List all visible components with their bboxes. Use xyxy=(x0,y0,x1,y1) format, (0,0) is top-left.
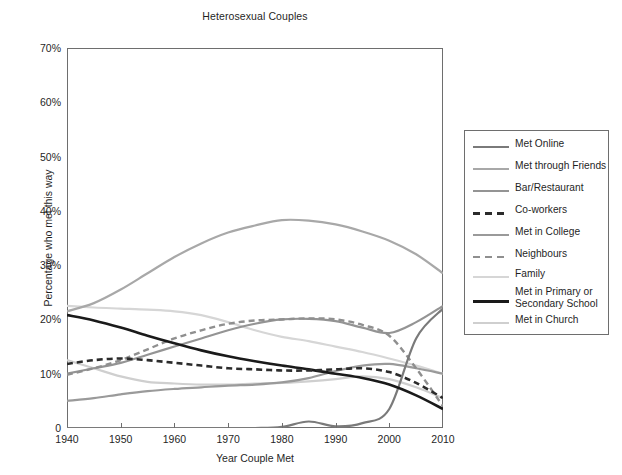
legend-label: Met in Primary or Secondary School xyxy=(515,286,598,309)
y-tick-label: 70% xyxy=(13,43,61,53)
legend-swatch-icon xyxy=(473,256,509,258)
legend-swatch-icon xyxy=(473,168,509,170)
x-tick-mark xyxy=(121,423,122,428)
series-line xyxy=(67,309,443,429)
legend-label: Met through Friends xyxy=(515,160,606,172)
y-tick-label: 0 xyxy=(13,423,61,433)
series-line xyxy=(67,360,443,398)
y-tick-label: 60% xyxy=(13,97,61,107)
chart-title: Heterosexual Couples xyxy=(67,10,443,22)
legend-swatch-icon xyxy=(473,234,509,236)
legend-item[interactable]: Bar/Restaurant xyxy=(465,185,610,205)
legend-label: Bar/Restaurant xyxy=(515,182,584,194)
legend-swatch-icon xyxy=(473,146,509,148)
x-tick-mark xyxy=(336,423,337,428)
x-tick-mark xyxy=(389,423,390,428)
x-tick-label: 1970 xyxy=(203,433,253,445)
x-tick-mark xyxy=(228,423,229,428)
x-tick-label: 1950 xyxy=(96,433,146,445)
y-tick-label: 30% xyxy=(13,260,61,270)
legend-label: Met in College xyxy=(515,226,580,238)
legend-item[interactable]: Co-workers xyxy=(465,207,610,227)
y-tick-label: 50% xyxy=(13,152,61,162)
x-tick-label: 1980 xyxy=(257,433,307,445)
legend-label: Met Online xyxy=(515,138,564,150)
legend-swatch-icon xyxy=(473,300,509,303)
x-tick-label: 2010 xyxy=(418,433,468,445)
x-tick-mark xyxy=(174,423,175,428)
x-tick-mark xyxy=(282,423,283,428)
legend-item[interactable]: Met through Friends xyxy=(465,163,610,183)
x-axis-label: Year Couple Met xyxy=(67,452,443,464)
legend-item[interactable]: Met Online xyxy=(465,141,610,161)
series-line xyxy=(67,220,443,312)
x-tick-label: 1940 xyxy=(42,433,92,445)
chart-legend: Met OnlineMet through FriendsBar/Restaur… xyxy=(464,130,609,335)
legend-label: Family xyxy=(515,268,545,280)
legend-label: Met in Church xyxy=(515,314,578,326)
x-tick-label: 1990 xyxy=(311,433,361,445)
chart-figure: Heterosexual Couples Percentage who met … xyxy=(0,0,622,475)
y-tick-label: 10% xyxy=(13,369,61,379)
legend-label: Co-workers xyxy=(515,204,567,216)
legend-item[interactable]: Met in College xyxy=(465,229,610,249)
legend-swatch-icon xyxy=(473,322,509,324)
x-tick-label: 2000 xyxy=(364,433,414,445)
legend-item[interactable]: Met in Church xyxy=(465,317,610,337)
chart-lines xyxy=(67,48,443,428)
x-tick-label: 1960 xyxy=(149,433,199,445)
legend-item[interactable]: Met in Primary or Secondary School xyxy=(465,291,610,311)
series-line xyxy=(67,364,443,401)
y-tick-label: 40% xyxy=(13,206,61,216)
y-tick-label: 20% xyxy=(13,314,61,324)
legend-swatch-icon xyxy=(473,212,509,215)
legend-swatch-icon xyxy=(473,190,509,192)
legend-swatch-icon xyxy=(473,276,509,278)
legend-label: Neighbours xyxy=(515,248,567,260)
